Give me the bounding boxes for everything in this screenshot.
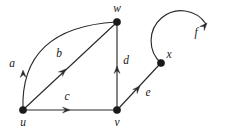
vertex-w — [113, 18, 120, 25]
vertex-labels-layer: uvwx — [20, 2, 172, 128]
vertex-u — [19, 106, 26, 113]
edge-label-e: e — [145, 86, 150, 98]
vertices-layer — [19, 18, 164, 113]
edge-label-f: f — [194, 26, 199, 39]
arrowhead-f — [200, 23, 207, 31]
arrowheads-layer — [20, 23, 207, 113]
edge-labels-layer: abcdef — [9, 26, 199, 102]
vertex-label-w: w — [113, 2, 121, 14]
vertex-v — [113, 106, 120, 113]
vertex-label-x: x — [165, 48, 172, 60]
graph-canvas: abcdef uvwx — [0, 0, 226, 130]
edges-layer — [23, 11, 206, 110]
edge-label-c: c — [64, 90, 69, 102]
edge-label-a: a — [9, 57, 15, 69]
directed-graph-figure: abcdef uvwx — [0, 0, 226, 130]
vertex-label-u: u — [20, 116, 26, 128]
vertex-x — [157, 59, 164, 66]
edge-label-b: b — [56, 47, 62, 59]
edge-b — [25, 24, 115, 108]
vertex-label-v: v — [114, 116, 120, 128]
edge-f — [151, 11, 206, 63]
edge-label-d: d — [123, 54, 129, 66]
arrowhead-a — [20, 70, 26, 78]
